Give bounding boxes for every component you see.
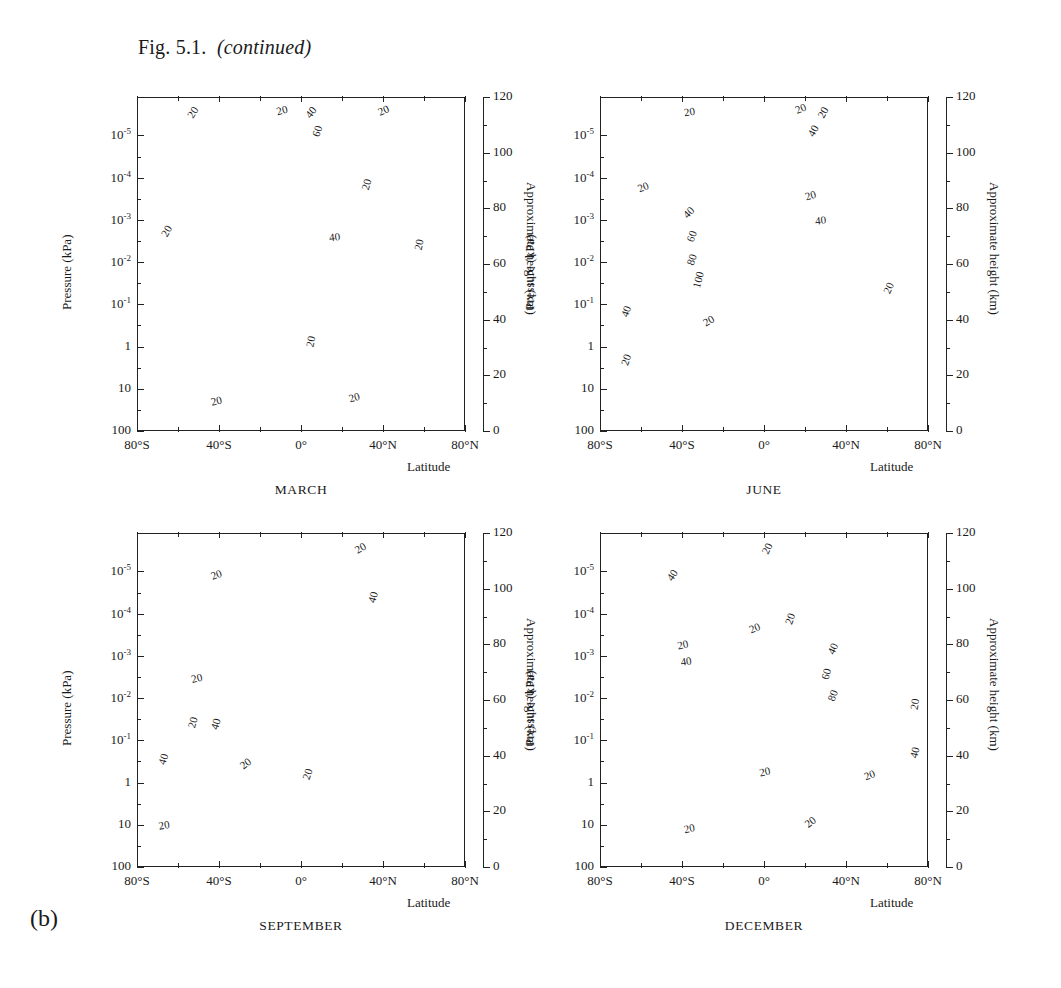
figure-caption-continued: (continued) bbox=[217, 36, 311, 58]
y-tick-mark bbox=[137, 867, 144, 868]
x-axis-title: Latitude bbox=[870, 459, 913, 475]
height-axis-march: 020406080100120 bbox=[483, 97, 523, 431]
contour-label: 40 bbox=[208, 717, 223, 731]
plot-area-june: 2020202020204040202040406060808010010020… bbox=[600, 97, 928, 431]
height-tick-label: 40 bbox=[493, 311, 506, 327]
y-tick-label: 10-3 bbox=[83, 647, 131, 664]
x-tick-mark-top bbox=[137, 532, 138, 538]
y-minor-tick bbox=[137, 846, 141, 847]
x-minor-tick-top bbox=[260, 96, 261, 101]
height-tick-mark bbox=[483, 208, 490, 209]
y-tick-mark bbox=[600, 867, 607, 868]
y-minor-tick bbox=[600, 199, 604, 200]
height-tick-label: 120 bbox=[493, 524, 513, 540]
y-minor-tick bbox=[600, 719, 604, 720]
x-tick-label: 80°N bbox=[433, 437, 497, 453]
contour-label: 20 bbox=[376, 102, 391, 118]
height-minor-tick bbox=[946, 784, 950, 785]
y-minor-tick bbox=[137, 241, 141, 242]
height-tick-label: 80 bbox=[956, 635, 969, 651]
contour-label: 20 bbox=[908, 697, 922, 710]
x-tick-mark-top bbox=[219, 96, 220, 102]
height-tick-label: 0 bbox=[493, 422, 500, 438]
x-tick-mark bbox=[682, 425, 683, 432]
y-tick-mark bbox=[600, 571, 607, 572]
height-tick-mark bbox=[483, 375, 490, 376]
y-tick-label: 1 bbox=[83, 774, 131, 790]
y-tick-mark bbox=[600, 178, 607, 179]
contour-label: 40 bbox=[155, 751, 170, 766]
height-tick-mark bbox=[946, 320, 953, 321]
height-minor-tick bbox=[483, 292, 487, 293]
y-tick-label: 10-1 bbox=[546, 731, 594, 748]
contour-label: 20 bbox=[676, 637, 690, 651]
contour-label: 20 bbox=[636, 179, 651, 194]
y-tick-mark bbox=[600, 389, 607, 390]
x-tick-mark bbox=[764, 425, 765, 432]
x-tick-label: 0° bbox=[732, 437, 796, 453]
height-tick-label: 120 bbox=[956, 88, 976, 104]
y-tick-mark bbox=[137, 220, 144, 221]
contour-label: 20 bbox=[158, 818, 171, 832]
x-minor-tick bbox=[641, 427, 642, 432]
height-minor-tick bbox=[483, 125, 487, 126]
y-minor-tick bbox=[600, 804, 604, 805]
height-minor-tick bbox=[946, 672, 950, 673]
x-tick-mark bbox=[383, 425, 384, 432]
y-minor-tick bbox=[137, 410, 141, 411]
x-tick-label: 40°S bbox=[187, 873, 251, 889]
y-tick-label: 100 bbox=[546, 422, 594, 438]
x-tick-label: 0° bbox=[269, 873, 333, 889]
contour-label: 20 bbox=[701, 312, 717, 328]
height-tick-label: 0 bbox=[956, 858, 963, 874]
height-minor-tick bbox=[483, 403, 487, 404]
y-tick-label: 1 bbox=[546, 338, 594, 354]
height-axis-december: 020406080100120 bbox=[946, 533, 986, 867]
x-tick-mark-top bbox=[301, 532, 302, 538]
height-tick-label: 20 bbox=[493, 802, 506, 818]
height-minor-tick bbox=[483, 348, 487, 349]
height-tick-label: 20 bbox=[956, 366, 969, 382]
contour-label: 20 bbox=[185, 715, 200, 729]
x-minor-tick bbox=[641, 863, 642, 868]
y-tick-label: 10-2 bbox=[83, 689, 131, 706]
y-tick-label: 10 bbox=[546, 380, 594, 396]
y-minor-tick bbox=[600, 283, 604, 284]
height-tick-mark bbox=[946, 97, 953, 98]
y-minor-tick bbox=[137, 804, 141, 805]
plot-area-december: 4040202020202020202040404040606080802020… bbox=[600, 533, 928, 867]
contour-label: 20 bbox=[158, 223, 174, 239]
contour-label: 40 bbox=[825, 641, 841, 656]
y-tick-mark bbox=[600, 262, 607, 263]
y-minor-tick bbox=[600, 157, 604, 158]
y-tick-label: 10-5 bbox=[546, 562, 594, 579]
x-tick-mark bbox=[682, 861, 683, 868]
y-tick-mark bbox=[137, 304, 144, 305]
x-tick-label: 80°S bbox=[568, 873, 632, 889]
contour-label: 20 bbox=[759, 540, 775, 556]
contour-label: 20 bbox=[804, 188, 818, 203]
x-minor-tick-top bbox=[424, 96, 425, 101]
x-tick-mark-top bbox=[846, 96, 847, 102]
y-tick-mark bbox=[600, 614, 607, 615]
x-tick-label: 80°S bbox=[105, 873, 169, 889]
y-axis-title: Pressure (kPa) bbox=[59, 671, 75, 746]
x-axis-title: Latitude bbox=[407, 459, 450, 475]
height-tick-mark bbox=[946, 375, 953, 376]
x-tick-mark bbox=[383, 861, 384, 868]
height-minor-tick bbox=[946, 125, 950, 126]
contour-label: 20 bbox=[862, 767, 877, 782]
y-tick-mark bbox=[600, 135, 607, 136]
height-tick-label: 40 bbox=[493, 747, 506, 763]
x-tick-label: 40°S bbox=[650, 873, 714, 889]
x-tick-mark bbox=[600, 425, 601, 432]
x-minor-tick-top bbox=[641, 96, 642, 101]
y-tick-label: 10-4 bbox=[546, 605, 594, 622]
height-tick-label: 100 bbox=[956, 580, 976, 596]
y-minor-tick bbox=[137, 719, 141, 720]
height-tick-label: 60 bbox=[493, 255, 506, 271]
y-minor-tick bbox=[137, 677, 141, 678]
x-tick-mark-top bbox=[383, 532, 384, 538]
y-tick-label: 10-1 bbox=[83, 731, 131, 748]
height-tick-mark bbox=[946, 644, 953, 645]
